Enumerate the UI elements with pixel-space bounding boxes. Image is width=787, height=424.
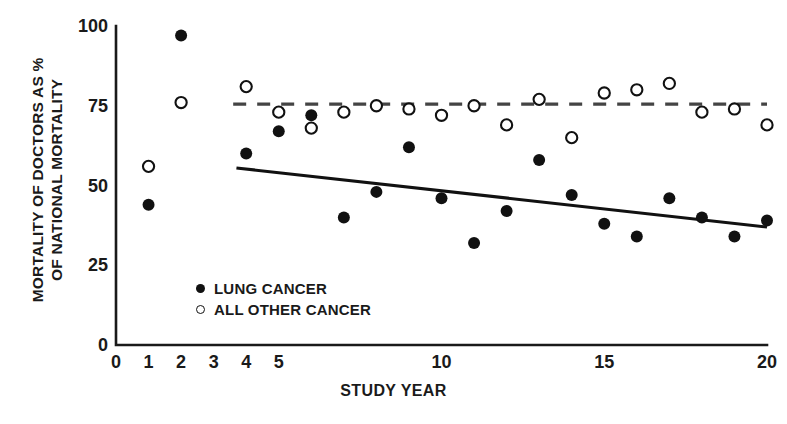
data-point-all-other-cancer [403,103,414,114]
data-point-all-other-cancer [501,119,512,130]
data-point-all-other-cancer [371,100,382,111]
data-point-all-other-cancer [468,100,479,111]
data-point-all-other-cancer [761,119,772,130]
data-point-all-other-cancer [306,122,317,133]
chart-container: MORTALITY OF DOCTORS AS % OF NATIONAL MO… [0,0,787,424]
data-point-all-other-cancer [599,87,610,98]
data-point-lung-cancer [501,205,513,217]
plot-area [0,0,787,424]
data-point-lung-cancer [338,211,350,223]
data-point-lung-cancer [696,211,708,223]
data-point-lung-cancer [403,141,415,153]
data-point-lung-cancer [273,125,285,137]
data-point-lung-cancer [566,189,578,201]
data-point-lung-cancer [761,215,773,227]
data-point-all-other-cancer [664,78,675,89]
data-point-all-other-cancer [176,97,187,108]
data-point-lung-cancer [468,237,480,249]
data-point-all-other-cancer [534,94,545,105]
data-point-all-other-cancer [338,107,349,118]
axis-spine [116,26,767,345]
data-point-all-other-cancer [696,107,707,118]
data-point-lung-cancer [305,109,317,121]
data-point-lung-cancer [598,218,610,230]
data-point-lung-cancer [631,231,643,243]
data-point-lung-cancer [175,30,187,42]
data-point-lung-cancer [370,186,382,198]
data-point-all-other-cancer [729,103,740,114]
data-point-lung-cancer [728,231,740,243]
data-point-lung-cancer [436,192,448,204]
data-point-all-other-cancer [143,161,154,172]
trend-line-lung-cancer-trend [236,168,767,227]
data-point-lung-cancer [143,199,155,211]
data-point-lung-cancer [533,154,545,166]
data-point-all-other-cancer [631,84,642,95]
data-point-all-other-cancer [566,132,577,143]
data-point-lung-cancer [663,192,675,204]
data-point-all-other-cancer [273,107,284,118]
data-point-all-other-cancer [436,110,447,121]
data-point-all-other-cancer [241,81,252,92]
data-point-lung-cancer [240,148,252,160]
